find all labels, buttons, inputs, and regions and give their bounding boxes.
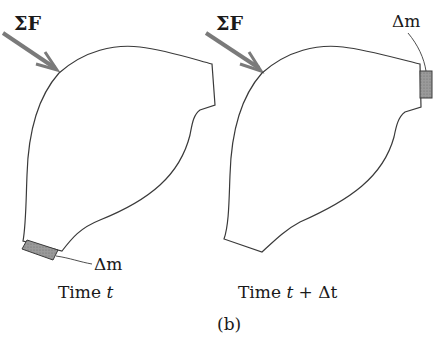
mass-label: Δm <box>392 11 420 31</box>
mass-leader-line <box>56 256 92 264</box>
time-label: Time t + Δt <box>238 282 338 302</box>
panel-time-t-plus-dt: ΣF Δm Time t + Δt <box>206 11 432 302</box>
force-arrow-icon <box>206 33 261 71</box>
control-volume-outline <box>23 46 215 251</box>
panel-time-t: ΣF Δm Time t <box>3 12 215 302</box>
mass-leader-line <box>408 33 426 71</box>
diagram-canvas: ΣF Δm Time t ΣF <box>0 0 437 337</box>
force-arrow-icon <box>3 33 57 70</box>
mass-element-block <box>22 240 58 260</box>
time-label: Time t <box>58 282 113 302</box>
figure-caption: (b) <box>217 314 241 334</box>
control-volume-outline <box>224 46 421 252</box>
mass-element-block <box>420 71 432 98</box>
mass-label: Δm <box>94 254 122 274</box>
force-label: ΣF <box>14 12 41 34</box>
force-label: ΣF <box>216 12 243 34</box>
